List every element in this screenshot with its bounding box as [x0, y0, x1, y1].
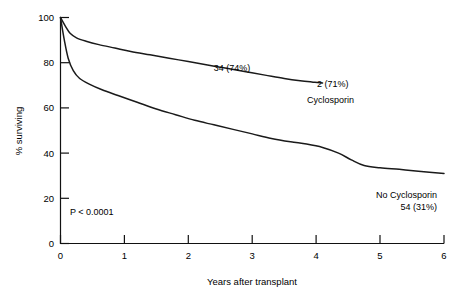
x-tick-label-0: 0 [58, 250, 63, 261]
y-tick-label-100: 100 [38, 12, 54, 23]
x-tick-label-6: 6 [441, 250, 446, 261]
annotation-p-value: P < 0.0001 [70, 207, 114, 217]
x-tick-label-1: 1 [122, 250, 127, 261]
x-tick-label-4: 4 [313, 250, 318, 261]
annotation-cyclosporin-endpoint: 2 (71%) [317, 79, 349, 89]
x-axis-ticks [61, 235, 445, 244]
chart-canvas: 100 80 60 40 20 0 0 1 2 3 4 5 6 % surviv… [0, 0, 463, 301]
y-axis-ticks [61, 18, 70, 244]
annotation-cyclosporin-name: Cyclosporin [307, 95, 354, 105]
y-tick-label-60: 60 [43, 102, 54, 113]
y-tick-label-40: 40 [43, 148, 54, 159]
x-tick-label-5: 5 [377, 250, 382, 261]
x-axis-tick-labels: 0 1 2 3 4 5 6 [58, 250, 447, 261]
x-axis-title: Years after transplant [207, 276, 297, 287]
survival-chart: 100 80 60 40 20 0 0 1 2 3 4 5 6 % surviv… [0, 0, 463, 301]
x-tick-label-2: 2 [186, 250, 191, 261]
annotation-no-cyclosporin-count: 54 (31%) [400, 202, 437, 212]
annotation-cyclosporin-count: 34 (74%) [214, 63, 251, 73]
survival-curve-no-cyclosporin [61, 18, 445, 174]
y-tick-label-80: 80 [43, 57, 54, 68]
x-tick-label-3: 3 [250, 250, 255, 261]
y-tick-label-20: 20 [43, 193, 54, 204]
y-axis-title: % surviving [13, 107, 24, 156]
survival-curve-cyclosporin [61, 18, 323, 84]
y-tick-label-0: 0 [49, 238, 54, 249]
annotation-no-cyclosporin-name: No Cyclosporin [376, 190, 437, 200]
y-axis-tick-labels: 100 80 60 40 20 0 [38, 12, 54, 249]
axis-lines [61, 17, 445, 244]
